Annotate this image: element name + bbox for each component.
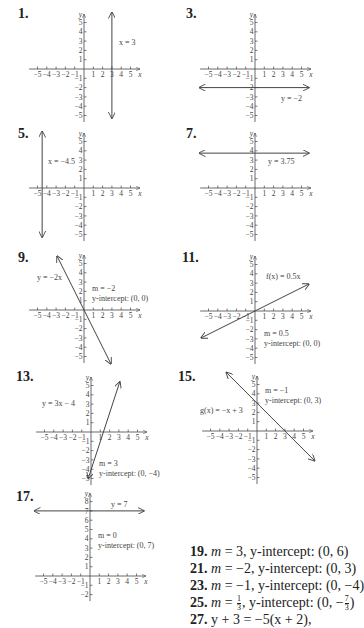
x-tick-label: −4 (214, 312, 222, 321)
y-tick-label: 3 (79, 278, 83, 287)
x-tick-label: 1 (262, 70, 266, 79)
intercept-note: y-intercept: (0, 0) (92, 294, 149, 303)
x-tick-label: −3 (52, 70, 60, 79)
x-tick-label: −4 (214, 189, 222, 198)
x-tick-label: 3 (283, 432, 287, 441)
x-tick-label: 2 (272, 312, 276, 321)
y-tick-label: −5 (246, 111, 254, 120)
y-tick-label: 2 (86, 409, 90, 418)
graph-5: −5−4−3−2−112345x−5−4−3−2−112345yx = −4.5 (29, 129, 142, 241)
x-tick-label: 1 (264, 432, 268, 441)
x-tick-label: −5 (207, 432, 215, 441)
y-tick-label: 5 (252, 380, 256, 389)
y-tick-label: 3 (250, 156, 254, 165)
x-tick-label: 2 (101, 70, 105, 79)
x-tick-label: 5 (135, 577, 139, 586)
y-tick-label: −4 (246, 344, 254, 353)
x-tick-label: 5 (129, 311, 133, 320)
y-tick-label: 1 (85, 562, 89, 571)
x-tick-label: 5 (129, 189, 133, 198)
x-tick-label: −5 (40, 577, 48, 586)
equation-label: y = −2 (281, 94, 302, 103)
y-tick-label: −1 (82, 437, 90, 446)
problem-number: 1. (18, 6, 29, 22)
x-tick-label: −2 (61, 189, 69, 198)
y-tick-label: −3 (246, 212, 254, 221)
x-tick-label: −4 (43, 189, 51, 198)
x-tick-label: 5 (300, 70, 304, 79)
x-tick-label: −4 (216, 432, 224, 441)
y-axis-label: y (249, 10, 254, 19)
x-tick-label: 5 (129, 70, 133, 79)
y-tick-label: −5 (246, 230, 254, 239)
y-tick-label: 4 (79, 146, 83, 155)
answer-27: 27. y + 3 = −5(x + 2), (190, 611, 311, 628)
y-tick-label: 5 (250, 18, 254, 27)
y-tick-label: 5 (79, 18, 83, 27)
x-tick-label: 3 (281, 312, 285, 321)
fraction-seven-thirds: 73 (345, 595, 349, 612)
equation-label: y = 3x − 4 (42, 399, 75, 408)
y-tick-label: 4 (79, 27, 83, 36)
x-tick-label: −2 (67, 577, 75, 586)
x-tick-label: 4 (126, 433, 130, 442)
x-tick-label: 1 (91, 189, 95, 198)
y-tick-label: 4 (252, 389, 256, 398)
x-tick-label: −5 (205, 189, 213, 198)
y-axis-label: y (78, 251, 83, 260)
y-tick-label: −3 (246, 93, 254, 102)
x-tick-label: 4 (290, 189, 294, 198)
y-tick-label: −1 (75, 315, 83, 324)
x-tick-label: −2 (234, 432, 242, 441)
slope-note: m = 3 (99, 459, 118, 468)
x-tick-label: −2 (232, 312, 240, 321)
x-tick-label: 3 (281, 189, 285, 198)
x-tick-label: 3 (110, 311, 114, 320)
x-tick-label: −5 (205, 70, 213, 79)
x-tick-label: −5 (34, 311, 42, 320)
fraction-one-third: 13 (237, 595, 241, 612)
y-tick-label: 2 (79, 165, 83, 174)
answer-23: 23. m = −1, y-intercept: (0, −4) (190, 577, 364, 594)
x-tick-label: 4 (119, 311, 123, 320)
y-tick-label: −2 (246, 202, 254, 211)
problem-number: 5. (18, 126, 29, 142)
x-tick-label: −5 (205, 312, 213, 321)
y-tick-label: −2 (81, 590, 89, 599)
y-axis-label: y (249, 129, 254, 138)
x-tick-label: −4 (50, 433, 58, 442)
y-tick-label: 2 (79, 46, 83, 55)
y-tick-label: −2 (246, 325, 254, 334)
x-tick-label: 4 (119, 70, 123, 79)
answer-19: 19. m = 3, y-intercept: (0, 6) (190, 543, 348, 560)
x-tick-label: 2 (274, 432, 278, 441)
y-tick-label: 4 (250, 269, 254, 278)
y-tick-label: −5 (248, 473, 256, 482)
x-tick-label: 3 (116, 577, 120, 586)
graph-15: −5−4−3−2−112345x−5−4−3−2−112345yg(x) = −… (200, 372, 322, 484)
y-tick-label: −2 (75, 83, 83, 92)
intercept-note: y-intercept: (0, 3) (265, 396, 322, 405)
y-tick-label: 5 (79, 259, 83, 268)
y-tick-label: −1 (248, 436, 256, 445)
y-tick-label: −5 (82, 474, 90, 483)
y-tick-label: 3 (250, 37, 254, 46)
x-axis-label: x (144, 433, 149, 442)
x-tick-label: −2 (232, 189, 240, 198)
x-tick-label: −2 (61, 311, 69, 320)
x-tick-label: −2 (68, 433, 76, 442)
x-axis-label: x (137, 70, 142, 79)
y-tick-label: −3 (246, 335, 254, 344)
x-tick-label: −3 (223, 189, 231, 198)
y-tick-label: 1 (79, 174, 83, 183)
y-tick-label: −4 (75, 343, 83, 352)
problem-number: 9. (18, 250, 29, 266)
x-tick-label: 1 (91, 311, 95, 320)
slope-note: m = 0 (98, 531, 117, 540)
x-tick-label: −4 (214, 70, 222, 79)
x-tick-label: 3 (281, 70, 285, 79)
equation-label: y = −2x (37, 273, 62, 282)
x-axis-label: x (143, 577, 148, 586)
x-tick-label: 1 (97, 577, 101, 586)
y-axis-label: y (78, 10, 83, 19)
